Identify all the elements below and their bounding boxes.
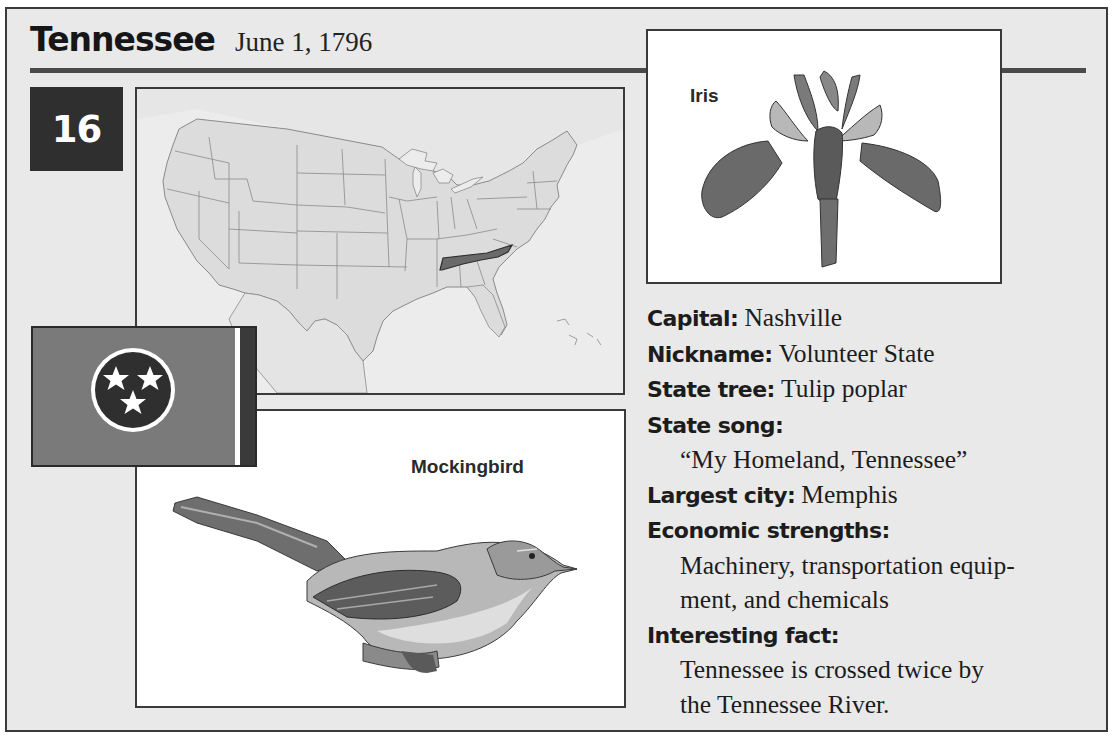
fact-interesting-fact-line-2: the Tennessee River.: [647, 688, 1097, 723]
statehood-date: June 1, 1796: [235, 27, 372, 58]
fact-largest-city: Largest city: Memphis: [647, 478, 1097, 514]
fact-state-song-value: “My Homeland, Tennessee”: [647, 443, 1097, 478]
fact-economic-strengths-line-1: Machinery, transportation equip-: [647, 549, 1097, 584]
fact-capital: Capital: Nashville: [647, 301, 1097, 337]
state-flower-label: Iris: [690, 85, 719, 107]
fact-economic-strengths-line-2: ment, and chemicals: [647, 583, 1097, 618]
page-title: Tennessee June 1, 1796: [30, 20, 372, 64]
state-facts: Capital: Nashville Nickname: Volunteer S…: [647, 301, 1097, 722]
fact-economic-strengths-label: Economic strengths:: [647, 513, 1097, 549]
tennessee-flag-icon: [33, 328, 255, 465]
state-flag: [31, 326, 257, 467]
state-bird-label: Mockingbird: [411, 456, 524, 478]
fact-nickname: Nickname: Volunteer State: [647, 337, 1097, 373]
state-name: Tennessee: [30, 20, 215, 59]
state-order-badge: 16: [30, 87, 123, 171]
fact-interesting-fact-label: Interesting fact:: [647, 618, 1097, 654]
fact-state-song-label: State song:: [647, 408, 1097, 444]
iris-icon: [648, 31, 1000, 282]
fact-interesting-fact-line-1: Tennessee is crossed twice by: [647, 653, 1097, 688]
state-order-number: 16: [52, 108, 102, 151]
state-flower-panel: Iris: [646, 29, 1002, 284]
fact-state-tree: State tree: Tulip poplar: [647, 372, 1097, 408]
